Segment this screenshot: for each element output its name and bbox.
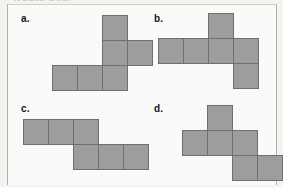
net-cell xyxy=(233,63,259,89)
net-cell xyxy=(102,65,128,91)
net-cell xyxy=(257,155,283,181)
net-cell xyxy=(208,38,234,64)
net-cell xyxy=(182,130,208,156)
net-cell xyxy=(73,144,99,170)
answer-choice-c[interactable]: c. xyxy=(13,97,146,185)
option-label-b: b. xyxy=(154,13,163,24)
net-cell xyxy=(23,119,49,145)
net-cell xyxy=(98,144,124,170)
net-cell xyxy=(233,38,259,64)
answer-choice-d[interactable]: d. xyxy=(146,97,276,185)
net-cell xyxy=(232,155,258,181)
option-label-a: a. xyxy=(21,13,30,24)
net-cell xyxy=(77,65,103,91)
net-cell xyxy=(73,119,99,145)
net-cell xyxy=(232,130,258,156)
net-cell xyxy=(208,13,234,39)
answer-choice-b[interactable]: b. xyxy=(146,7,276,97)
net-cell xyxy=(158,38,184,64)
net-cell xyxy=(102,15,128,41)
answer-choice-a[interactable]: a. xyxy=(13,7,146,97)
question-page: to answer to this? a. b. c. d. xyxy=(0,0,283,187)
net-cell xyxy=(183,38,209,64)
net-cell xyxy=(48,119,74,145)
option-label-d: d. xyxy=(154,103,163,114)
clipped-header-text: to answer to this? xyxy=(14,0,72,2)
net-cell xyxy=(102,40,128,66)
net-cell xyxy=(207,130,233,156)
net-cell xyxy=(207,105,233,131)
net-cell xyxy=(52,65,78,91)
option-label-c: c. xyxy=(21,103,30,114)
answer-choices-card: a. b. c. d. xyxy=(7,4,277,185)
